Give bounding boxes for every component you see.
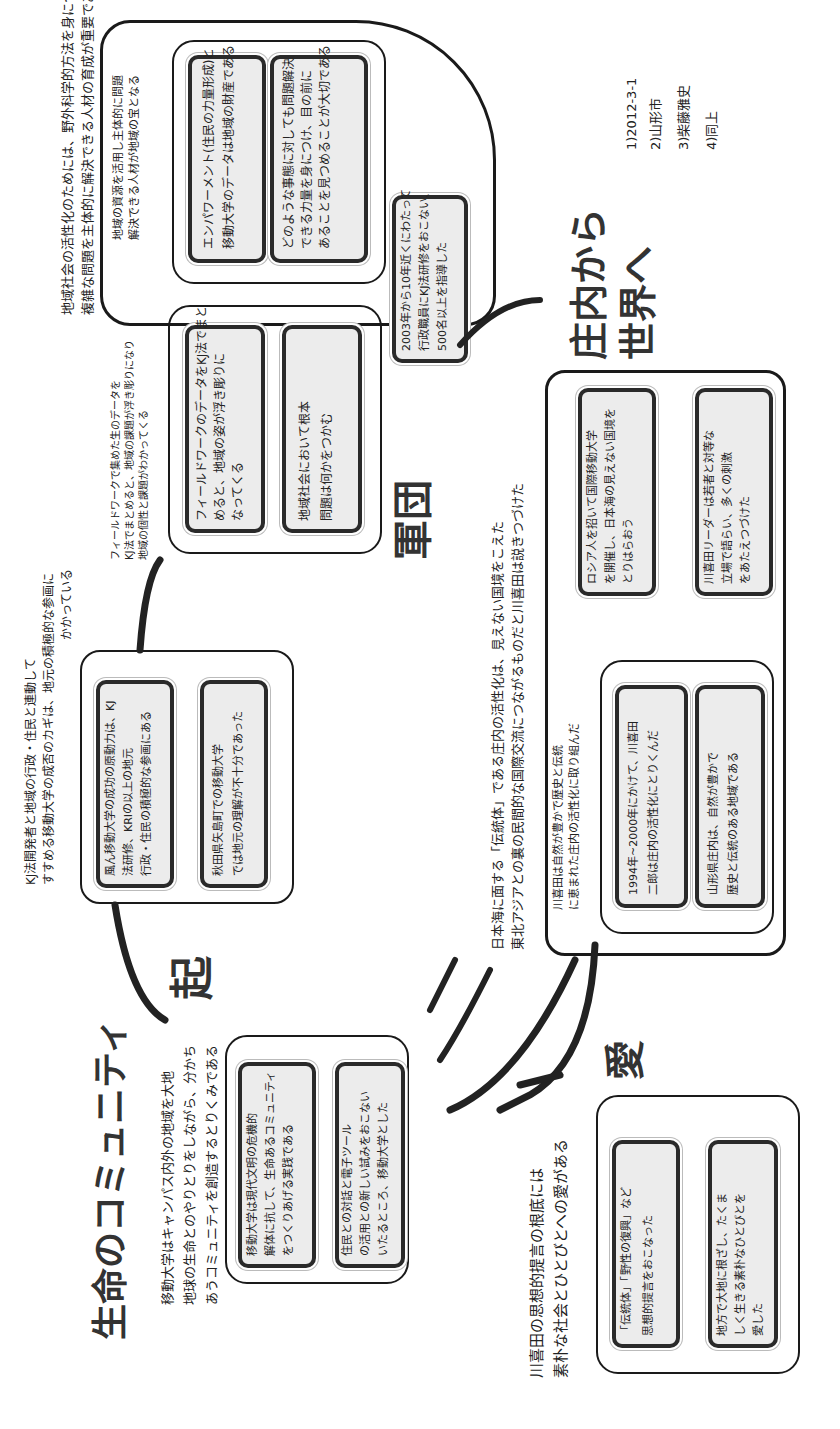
card-text: 地方で大地に根ざし、たくま (716, 1193, 730, 1336)
card-text: 歴史と伝統のある地域である (727, 752, 741, 895)
card-text: 二郎は庄内の活性化にとりくんだ (647, 730, 661, 895)
card-text: なってくる (231, 462, 246, 521)
ten-sub-header-2: に恵まれた庄内の活性化に取り組んだ (568, 723, 582, 910)
card-text: 行政・住民の積極的な参画にある (140, 711, 154, 876)
seimei-header-2: 地球の生命とのやりとりをしながら、分かち (182, 1045, 198, 1305)
footnote-3: 3)柴藤雅史 (676, 85, 692, 150)
card-text: 山形県庄内は、自然が豊かで (707, 752, 721, 895)
sho-card-a1: エンパワーメント(住民の力量形成)と 移動大学のデータは地域の財産である (188, 55, 266, 263)
card-text: いたるところ、移動大学とした (377, 1102, 391, 1256)
sho-sub-a-header-1: 地域の資源を活用し主体的に問題 (112, 75, 126, 240)
card-text: どのような事態に対しても問題解決 (282, 58, 297, 249)
arc-ten-3 (450, 960, 575, 1110)
card-text: 移動大学は現代文明の危機的 (246, 1113, 260, 1256)
card-text: 2003年から10年近くにわたって (400, 189, 414, 351)
card-text: 立場で語らい、多くの刺激 (721, 452, 735, 584)
sho-header-1: 地域社会の活性化のためには、野外科学的方法を身につけ、地域の (60, 0, 76, 315)
arc-ki (115, 905, 165, 1020)
card-text: 秋田県矢島町での移動大学 (212, 744, 226, 876)
card-text: 法研修、KRIの以上の地元 (122, 748, 136, 876)
ten-label: 庄内から世界へ (565, 180, 664, 360)
card-text: できる力量を身につけ、目の前に (300, 70, 315, 249)
ketsu-header-2: 素朴な社会とひとびとへの愛がある (552, 1139, 571, 1378)
ketsu-label: 愛 (600, 1040, 650, 1080)
footnote-4: 4)同上 (704, 111, 720, 150)
card-text: をつくりあげる実践である (282, 1124, 296, 1256)
ki-header-2: すすめる移動大学の成否のカギは、地元の積極的な参画に (42, 573, 57, 885)
card-text: 思想的提言をおこなった (642, 1215, 656, 1336)
card-text: 地域社会において根本 (298, 401, 313, 521)
card-text: 移動大学のデータは地域の財産である (222, 45, 237, 249)
card-text: 1994年~2000年にかけて、川喜田 (627, 721, 641, 895)
seimei-card-2: 住民との対話と電子ツール の活用との新しい試みをおこない いたるところ、移動大学… (335, 1062, 405, 1268)
sho-extra-card: 2003年から10年近くにわたって 行政職員にKJ法研修をおこない、 500名以… (392, 195, 468, 363)
sho-sub-b-header-3: 地域の個性と課題がわかってくる (138, 410, 151, 560)
card-text: とりはらおう (622, 518, 636, 584)
ki-header-1: KJ法開発者と地域の行政・住民と連動して (24, 658, 39, 885)
sho-sub-b-header-2: KJ法でまとめると、地域の課題が浮き彫りになり (124, 340, 137, 560)
card-text: あることを見つめることが大切である (318, 45, 333, 249)
card-text: では地元の理解が不十分であった (232, 711, 246, 876)
card-text: フィールドワークのデータをKJ法でまと (195, 306, 210, 521)
ki-card-2: 秋田県矢島町での移動大学 では地元の理解が不十分であった (200, 680, 268, 888)
ten-card-2: 川喜田リーダーは若者と対等な 立場で語らい、多くの刺激 をあたえつづけた (695, 388, 773, 596)
card-text: エンパワーメント(住民の力量形成)と (202, 48, 217, 249)
ten-sub-card-2: 山形県庄内は、自然が豊かで 歴史と伝統のある地域である (695, 685, 765, 908)
ki-card-1: 風ん移動大学の成功の原動力は、KJ 法研修、KRIの以上の地元 行政・住民の積極… (96, 680, 174, 888)
ten-sub-header-1: 川喜田は自然が豊かで歴史と伝統 (552, 745, 566, 910)
ketsu-card-2: 地方で大地に根ざし、たくま しく生きる素朴なひとびとを 愛した (708, 1140, 778, 1348)
card-text: 川喜田リーダーは若者と対等な (703, 430, 717, 584)
card-text: ロシア人を招いて国際移動大学 (586, 430, 600, 584)
seimei-label: 生命のコミュニティ (88, 1018, 133, 1340)
arc-ketsu-branch (520, 1075, 560, 1085)
sho-card-b1: フィールドワークのデータをKJ法でまと めると、地域の姿が浮き彫りに なってくる (185, 325, 265, 533)
card-text: 「伝統体」「野性の復興」など (620, 1187, 634, 1336)
ketsu-card-1: 「伝統体」「野性の復興」など 思想的提言をおこなった (612, 1140, 680, 1348)
seimei-header-1: 移動大学はキャンパス内外の地域を大地 (160, 1071, 176, 1305)
arc-ketsu (500, 945, 595, 1110)
seimei-card-1: 移動大学は現代文明の危機的 解体に抗して、生命あるコミュニティ をつくりあげる実… (238, 1062, 316, 1268)
arc-ki-sho (140, 560, 160, 650)
card-text: 風ん移動大学の成功の原動力は、KJ (104, 701, 118, 876)
sho-card-b2: 地域社会において根本 問題は何かをつかむ (282, 325, 362, 533)
ten-header-2: 東北アジアとの裏の民間的な国際交流につながるものだと川喜田は説きつづけた (510, 483, 526, 950)
card-text: の活用との新しい試みをおこない (359, 1091, 373, 1256)
arc-ten-1 (430, 960, 455, 1010)
ketsu-header-1: 川喜田の思想的提言の根底には (528, 1168, 547, 1378)
ki-label: 起 (165, 956, 220, 1000)
sho-sub-a-header-2: 解決できる人材が地域の宝となる (128, 75, 142, 240)
card-text: を開催し、日本海の見えない国境を (604, 408, 618, 584)
sho-sub-b-header-1: フィールドワークで集めた生のデータを (110, 380, 123, 560)
sho-header-2: 複雑な問題を主体的に解決できる人材の育成が重要である (80, 0, 96, 315)
card-text: 行政職員にKJ法研修をおこない、 (418, 187, 432, 351)
sho-label: 軍団 (388, 480, 438, 560)
ten-sub-card-1: 1994年~2000年にかけて、川喜田 二郎は庄内の活性化にとりくんだ (615, 685, 688, 908)
sho-card-a2: どのような事態に対しても問題解決 できる力量を身につけ、目の前に あることを見つ… (270, 55, 368, 263)
card-text: 愛した (752, 1303, 766, 1336)
card-text: 問題は何かをつかむ (320, 413, 335, 521)
arc-ten-2 (440, 970, 490, 1060)
card-text: をあたえつづけた (739, 496, 753, 584)
seimei-header-3: あうコミュニティを創造するとりくみである (204, 1045, 220, 1305)
footnote-1: 1)2012-3-1 (624, 78, 640, 150)
ten-header-1: 日本海に面する「伝統体」である庄内の活性化は、見えない国境をこえた (490, 521, 506, 950)
card-text: 住民との対話と電子ツール (341, 1124, 355, 1256)
footnote-2: 2)山形市 (648, 98, 664, 150)
card-text: 解体に抗して、生命あるコミュニティ (264, 1071, 278, 1256)
card-text: 500名以上を指導した (436, 242, 450, 351)
card-text: しく生きる素朴なひとびとを (734, 1193, 748, 1336)
ki-header-3: かかっている (60, 569, 75, 640)
ten-card-1: ロシア人を招いて国際移動大学 を開催し、日本海の見えない国境を とりはらおう (578, 388, 656, 596)
card-text: めると、地域の姿が浮き彫りに (213, 353, 228, 521)
